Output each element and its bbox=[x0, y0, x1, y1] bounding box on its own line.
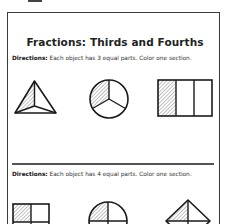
rectangle-thirds-shape[interactable] bbox=[157, 79, 213, 117]
circle-thirds-shape[interactable] bbox=[88, 78, 130, 120]
directions-thirds: Directions: Each object has 3 equal part… bbox=[12, 55, 192, 61]
diamond-fourths-shape[interactable] bbox=[165, 198, 211, 224]
section-divider bbox=[12, 163, 214, 165]
triangle-thirds-shape[interactable] bbox=[14, 79, 58, 115]
page-edge-mark bbox=[28, 0, 42, 2]
directions-label: Directions: bbox=[12, 55, 48, 61]
directions-text: Each object has 4 equal parts. Color one… bbox=[48, 171, 192, 177]
square-fourths-shape[interactable] bbox=[12, 203, 50, 224]
directions-fourths: Directions: Each object has 4 equal part… bbox=[12, 171, 192, 177]
directions-text: Each object has 3 equal parts. Color one… bbox=[48, 55, 192, 61]
directions-label: Directions: bbox=[12, 171, 48, 177]
circle-fourths-shape[interactable] bbox=[87, 200, 129, 224]
worksheet-title: Fractions: Thirds and Fourths bbox=[0, 36, 230, 48]
